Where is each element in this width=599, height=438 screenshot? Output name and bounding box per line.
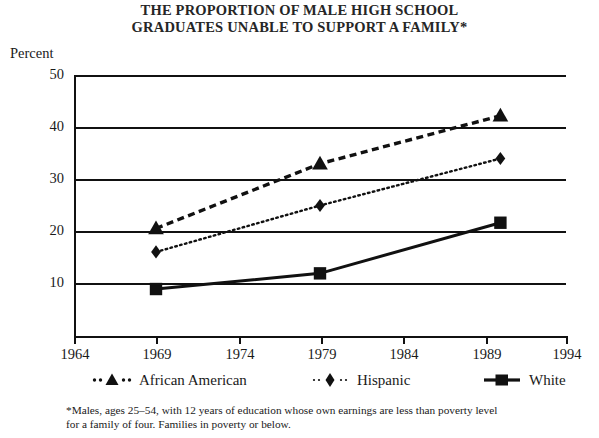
- chart-title: THE PROPORTION OF MALE HIGH SCHOOL GRADU…: [0, 2, 599, 36]
- x-tick-1984: [403, 336, 405, 344]
- gridline-30: [74, 179, 566, 181]
- x-tick-1969: [156, 336, 158, 344]
- chart-title-line-1: THE PROPORTION OF MALE HIGH SCHOOL: [0, 2, 599, 19]
- legend-item-african-american[interactable]: African American: [92, 370, 247, 392]
- legend-label-hispanic: Hispanic: [357, 372, 410, 389]
- y-tick-label-20: 20: [18, 222, 64, 239]
- x-tick-label-1974: 1974: [210, 346, 270, 363]
- footnote-line-2: for a family of four. Families in povert…: [66, 418, 591, 432]
- x-tick-1994: [566, 336, 568, 344]
- x-tick-label-1994: 1994: [537, 346, 597, 363]
- y-tick-label-30: 30: [18, 170, 64, 187]
- legend-item-white[interactable]: White: [482, 370, 566, 392]
- x-tick-label-1989: 1989: [457, 346, 517, 363]
- legend-item-hispanic[interactable]: Hispanic: [310, 370, 410, 392]
- y-tick-label-50: 50: [18, 66, 64, 83]
- x-tick-1989: [486, 336, 488, 344]
- gridline-20: [74, 231, 566, 233]
- legend-label-white: White: [529, 372, 566, 389]
- legend-sample-square-icon: [482, 370, 522, 390]
- y-axis-label: Percent: [10, 45, 53, 62]
- gridline-50: [74, 75, 566, 77]
- plot-area: [74, 75, 566, 336]
- y-axis-spine: [74, 75, 76, 336]
- gridline-40: [74, 127, 566, 129]
- legend-sample-diamond-icon: [310, 370, 350, 390]
- x-tick-label-1969: 1969: [127, 346, 187, 363]
- x-tick-1974: [239, 336, 241, 344]
- x-tick-1979: [321, 336, 323, 344]
- chart-footnote: *Males, ages 25–54, with 12 years of edu…: [66, 404, 591, 431]
- gridline-10: [74, 283, 566, 285]
- x-tick-1964: [74, 336, 76, 344]
- y-tick-label-40: 40: [18, 118, 64, 135]
- y-tick-label-10: 10: [18, 274, 64, 291]
- legend-label-african-american: African American: [139, 372, 247, 389]
- x-tick-label-1979: 1979: [292, 346, 352, 363]
- chart-legend: African American Hispanic White: [0, 370, 599, 394]
- chart-title-line-2: GRADUATES UNABLE TO SUPPORT A FAMILY*: [0, 19, 599, 36]
- footnote-line-1: *Males, ages 25–54, with 12 years of edu…: [66, 404, 591, 418]
- legend-sample-triangle-icon: [92, 370, 132, 390]
- x-tick-label-1964: 1964: [45, 346, 105, 363]
- x-tick-label-1984: 1984: [374, 346, 434, 363]
